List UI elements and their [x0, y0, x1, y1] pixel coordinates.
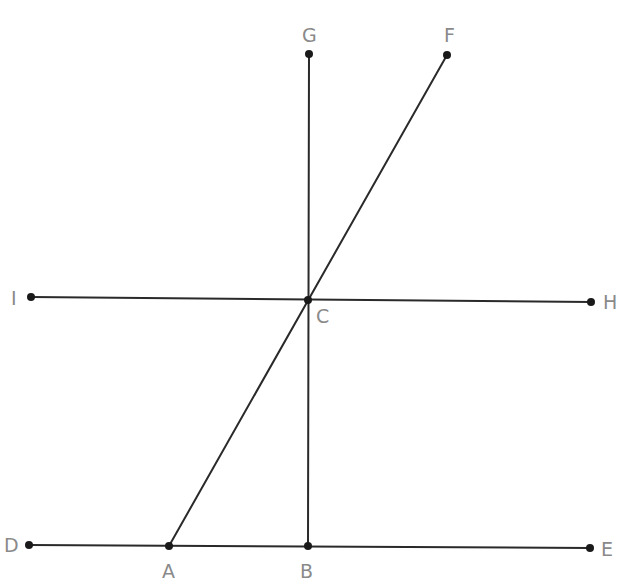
- point-A: [165, 542, 173, 550]
- point-label-B: B: [300, 560, 313, 582]
- point-label-D: D: [4, 534, 19, 556]
- point-label-F: F: [444, 24, 455, 46]
- point-label-E: E: [601, 538, 613, 560]
- point-C: [304, 296, 312, 304]
- point-G: [305, 50, 313, 58]
- point-label-H: H: [603, 291, 617, 313]
- point-label-G: G: [302, 24, 317, 46]
- point-I: [27, 293, 35, 301]
- point-H: [587, 298, 595, 306]
- point-B: [304, 542, 312, 550]
- point-E: [586, 544, 594, 552]
- geometry-diagram: ABCDEFGHI: [0, 0, 623, 586]
- point-label-C: C: [316, 305, 329, 327]
- point-label-I: I: [11, 287, 17, 309]
- point-F: [443, 51, 451, 59]
- labels-layer: ABCDEFGHI: [4, 24, 617, 582]
- point-D: [25, 541, 33, 549]
- point-label-A: A: [162, 560, 175, 582]
